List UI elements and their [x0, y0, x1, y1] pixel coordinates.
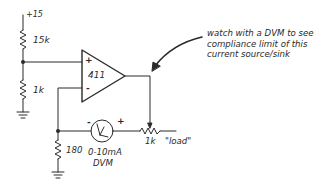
annotation-arrowhead-icon: [152, 62, 160, 71]
wiper-arrow-icon: [148, 123, 152, 128]
annotation-text: watch with a DVM to see compliance limit…: [207, 28, 314, 60]
annotation-arrow: [155, 37, 202, 66]
resistor-load-label: 1k: [145, 137, 155, 146]
resistor-180: [55, 140, 61, 159]
annotation-line-3: current source/sink: [207, 49, 314, 60]
resistor-load-note: "load": [165, 137, 191, 146]
opamp-minus-label: -: [86, 84, 90, 93]
meter-plus-label: +: [117, 117, 125, 126]
ammeter-icon: [91, 120, 113, 142]
meter-type-label: DVM: [93, 159, 113, 168]
wire-output-to-wiper: [125, 76, 150, 126]
resistor-1k-divider-label: 1k: [33, 86, 44, 95]
meter-minus-label: -: [87, 118, 91, 127]
meter-range-label: 0-10mA: [88, 148, 122, 157]
supply-label: +15: [26, 11, 43, 19]
ground-icon-divider: [17, 112, 29, 118]
resistor-1k-divider: [20, 80, 26, 99]
opamp-plus-label: +: [85, 56, 93, 65]
annotation-line-2: compliance limit of this: [207, 39, 314, 50]
opamp-label: 411: [88, 71, 105, 80]
resistor-1k-load: [140, 128, 160, 134]
annotation-line-1: watch with a DVM to see: [207, 28, 314, 39]
resistor-15k: [20, 30, 26, 49]
resistor-15k-label: 15k: [33, 36, 50, 45]
ground-icon-sense: [52, 172, 64, 178]
wire-minus-feedback: [58, 88, 82, 140]
resistor-180-label: 180: [66, 146, 82, 155]
